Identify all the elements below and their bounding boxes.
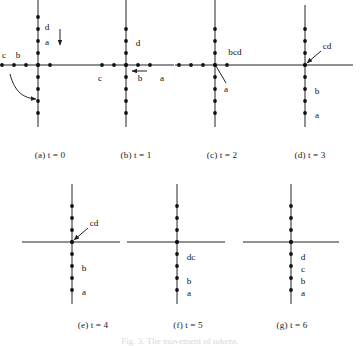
figure-bottom-caption: Fig. 3. The movement of tokens. bbox=[0, 336, 360, 346]
lattice-dot bbox=[70, 240, 74, 244]
token-label: bcd bbox=[228, 47, 242, 57]
lattice-dot bbox=[213, 75, 217, 79]
lattice-dot bbox=[213, 99, 217, 103]
lattice-dot bbox=[100, 63, 104, 67]
lattice-dot bbox=[175, 252, 179, 256]
lattice-dot bbox=[175, 276, 179, 280]
lattice-dot bbox=[225, 63, 229, 67]
lattice-dot bbox=[175, 240, 179, 244]
lattice-dot bbox=[36, 51, 40, 55]
lattice-dot bbox=[70, 252, 74, 256]
lattice-dot bbox=[289, 216, 293, 220]
lattice-dot bbox=[177, 63, 181, 67]
lattice-dot bbox=[70, 216, 74, 220]
token-label: b bbox=[138, 73, 143, 83]
pointer-arrow-icon bbox=[74, 228, 88, 240]
lattice-dot bbox=[70, 228, 74, 232]
lattice-dot bbox=[201, 63, 205, 67]
panel-caption-a: (a) t = 0 bbox=[20, 150, 80, 160]
lattice-dot bbox=[36, 27, 40, 31]
lattice-dot bbox=[36, 87, 40, 91]
lattice-dot bbox=[70, 288, 74, 292]
lattice-dot bbox=[213, 51, 217, 55]
lattice-dot bbox=[24, 63, 28, 67]
lattice-dot bbox=[124, 111, 128, 115]
token-label: d bbox=[45, 22, 50, 32]
leader-line bbox=[216, 66, 226, 83]
token-label: b bbox=[301, 276, 306, 286]
lattice-dot bbox=[303, 87, 307, 91]
token-label: a bbox=[301, 288, 305, 298]
lattice-dot bbox=[303, 27, 307, 31]
lattice-dot bbox=[303, 39, 307, 43]
lattice-dot bbox=[289, 252, 293, 256]
lattice-dot bbox=[124, 99, 128, 103]
token-label: d bbox=[301, 252, 306, 262]
token-label: cd bbox=[90, 218, 99, 228]
lattice-dot bbox=[175, 288, 179, 292]
panel-caption-f: (f) t = 5 bbox=[158, 320, 218, 330]
lattice-dot bbox=[289, 228, 293, 232]
lattice-dot bbox=[175, 264, 179, 268]
lattice-dot bbox=[213, 111, 217, 115]
lattice-dot bbox=[124, 27, 128, 31]
token-label: b bbox=[82, 263, 87, 273]
lattice-dot bbox=[124, 87, 128, 91]
lattice-dot bbox=[124, 63, 128, 67]
lattice-dot bbox=[289, 240, 293, 244]
lattice-dot bbox=[303, 111, 307, 115]
lattice-dot bbox=[303, 63, 307, 67]
panel-caption-g: (g) t = 6 bbox=[262, 320, 322, 330]
lattice-dot bbox=[36, 63, 40, 67]
token-label: b bbox=[315, 86, 320, 96]
lattice-dot bbox=[0, 63, 4, 67]
lattice-dot bbox=[36, 39, 40, 43]
lattice-dot bbox=[189, 63, 193, 67]
lattice-dot bbox=[303, 75, 307, 79]
lattice-dot bbox=[36, 99, 40, 103]
lattice-dot bbox=[175, 216, 179, 220]
lattice-dot bbox=[213, 39, 217, 43]
lattice-dot bbox=[303, 51, 307, 55]
panel-caption-b: (b) t = 1 bbox=[106, 150, 166, 160]
lattice-dot bbox=[175, 228, 179, 232]
lattice-dot bbox=[124, 75, 128, 79]
token-label: d bbox=[136, 38, 141, 48]
lattice-dot bbox=[70, 264, 74, 268]
lattice-dot bbox=[213, 87, 217, 91]
token-label: a bbox=[45, 37, 49, 47]
lattice-dot bbox=[36, 15, 40, 19]
lattice-dot bbox=[70, 276, 74, 280]
lattice-dot bbox=[124, 39, 128, 43]
token-label: a bbox=[187, 288, 191, 298]
lattice-dot bbox=[289, 264, 293, 268]
lattice-dot bbox=[289, 288, 293, 292]
lattice-dot bbox=[70, 204, 74, 208]
pointer-arrow-icon bbox=[307, 51, 321, 63]
token-label: a bbox=[82, 287, 86, 297]
token-label: dc bbox=[187, 252, 196, 262]
token-label: b bbox=[187, 276, 192, 286]
panel-caption-e: (e) t = 4 bbox=[63, 320, 123, 330]
lattice-dot bbox=[148, 63, 152, 67]
token-label: c bbox=[2, 50, 6, 60]
panel-caption-d: (d) t = 3 bbox=[280, 150, 340, 160]
curved-arrow-icon bbox=[10, 74, 36, 99]
lattice-dot bbox=[213, 27, 217, 31]
lattice-dot bbox=[36, 111, 40, 115]
token-label: b bbox=[16, 50, 21, 60]
token-label: a bbox=[224, 84, 228, 94]
lattice-dot bbox=[112, 63, 116, 67]
lattice-dot bbox=[48, 63, 52, 67]
token-label: c bbox=[301, 264, 305, 274]
token-label: cd bbox=[323, 41, 332, 51]
token-label: a bbox=[315, 110, 319, 120]
lattice-dot bbox=[289, 204, 293, 208]
lattice-dot bbox=[124, 51, 128, 55]
lattice-dot bbox=[289, 276, 293, 280]
lattice-dot bbox=[136, 63, 140, 67]
token-label: c bbox=[98, 73, 102, 83]
lattice-dot bbox=[175, 204, 179, 208]
panel-g: dcba bbox=[229, 170, 360, 324]
